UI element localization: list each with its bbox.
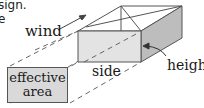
effective-area-label-line1: effective (9, 71, 65, 85)
wind-load-diagram: sign. e (0, 0, 204, 108)
side-label: side (92, 64, 121, 79)
effective-area-label-line2: area (23, 85, 52, 99)
height-label: height (167, 58, 204, 73)
wind-arrow-icon (58, 15, 86, 30)
box-front-face (78, 31, 141, 62)
effective-area-box: effective area (7, 67, 68, 103)
wind-label: wind (25, 24, 62, 39)
